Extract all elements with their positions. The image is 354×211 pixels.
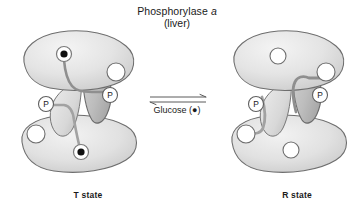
t-lower-empty-site (27, 125, 45, 143)
r-lower-active-site (283, 142, 299, 158)
equilibrium-arrows (150, 94, 206, 104)
phosphorylase-conformational-states-figure: Phosphorylase a (liver) (0, 0, 354, 211)
t-lower-glucose-site (74, 145, 89, 160)
r-upper-lobe (234, 31, 344, 91)
r-upper-active-site (270, 48, 286, 64)
equilibrium-ligand-label: Glucose (●) (132, 105, 222, 115)
r-lower-empty-site (237, 125, 255, 143)
r-upper-empty-site (317, 63, 335, 81)
r-upper-p-label: P (317, 90, 323, 100)
r-upper-phosphoserine: P (313, 88, 328, 103)
t-upper-subunit (24, 31, 134, 91)
r-state-molecule: P P (232, 31, 347, 173)
t-lower-glucose-dot (77, 148, 84, 155)
t-upper-phosphoserine: P (103, 88, 118, 103)
t-lower-phosphoserine: P (39, 97, 54, 112)
ligand-name: Glucose (154, 105, 187, 115)
t-state-molecule: P P (22, 31, 137, 173)
t-upper-empty-site (107, 63, 125, 81)
r-lower-p-label: P (253, 99, 259, 109)
r-lower-phosphoserine: P (249, 97, 264, 112)
r-upper-subunit (234, 31, 344, 91)
r-state-label: R state (252, 190, 342, 200)
t-upper-glucose-site (57, 47, 72, 62)
t-upper-glucose-dot (60, 50, 67, 57)
t-lower-p-label: P (43, 99, 49, 109)
t-upper-p-label: P (107, 90, 113, 100)
t-upper-lobe (24, 31, 134, 91)
t-state-label: T state (43, 190, 133, 200)
ligand-symbol: (●) (189, 105, 200, 115)
